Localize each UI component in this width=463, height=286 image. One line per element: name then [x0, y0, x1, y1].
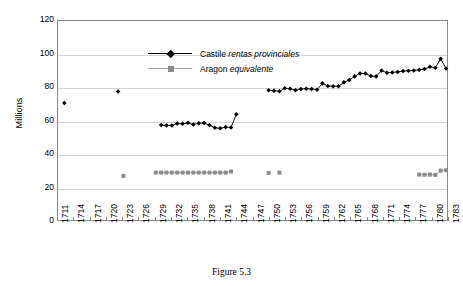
data-point-diamond	[395, 70, 400, 75]
data-point-square	[433, 173, 437, 177]
figure-caption: Figure 5.3	[0, 267, 463, 277]
x-tickmark-1774	[399, 217, 400, 221]
data-point-diamond	[433, 65, 438, 70]
data-point-square	[121, 174, 125, 178]
data-point-diamond	[385, 70, 390, 75]
data-point-diamond	[62, 101, 67, 106]
data-point-square	[170, 171, 174, 175]
data-point-square	[181, 171, 185, 175]
x-tickmark-1732	[171, 217, 172, 221]
data-point-square	[154, 171, 158, 175]
data-point-diamond	[406, 68, 411, 73]
data-point-square	[417, 173, 421, 177]
data-point-diamond	[331, 84, 336, 89]
y-axis-tick-100: 100	[30, 49, 54, 58]
data-point-diamond	[266, 88, 271, 93]
data-point-square	[191, 171, 195, 175]
x-axis-tick-1774: 1774	[403, 204, 412, 223]
x-axis-tick-1741: 1741	[224, 204, 233, 223]
x-tickmark-1735	[187, 217, 188, 221]
data-point-square	[164, 171, 168, 175]
x-tickmark-1771	[383, 217, 384, 221]
x-tickmark-1738	[204, 217, 205, 221]
x-axis-tick-labels: 1711171417171720172317261729173217351738…	[57, 221, 448, 267]
data-point-diamond	[170, 123, 175, 128]
data-point-diamond	[202, 121, 207, 126]
x-tickmark-1723	[122, 217, 123, 221]
data-point-diamond	[422, 67, 427, 72]
data-point-diamond	[272, 88, 277, 93]
series-aragon	[121, 168, 448, 178]
figure-container: Millions 020406080100120 Castile rentas …	[0, 0, 463, 286]
data-point-diamond	[196, 121, 201, 126]
x-tickmark-1783	[448, 217, 449, 221]
x-axis-tick-1714: 1714	[77, 204, 86, 223]
data-point-diamond	[180, 122, 185, 127]
x-axis-tick-1783: 1783	[452, 204, 461, 223]
y-axis-tick-120: 120	[30, 15, 54, 24]
y-axis-tick-80: 80	[30, 82, 54, 91]
data-point-square	[229, 170, 233, 174]
data-point-diamond	[412, 68, 417, 73]
x-axis-tick-1747: 1747	[257, 204, 266, 223]
x-tickmark-1768	[367, 217, 368, 221]
data-point-diamond	[428, 64, 433, 69]
x-tickmark-1717	[90, 217, 91, 221]
x-tickmark-1729	[155, 217, 156, 221]
x-axis-tick-1726: 1726	[142, 204, 151, 223]
x-axis-tick-1765: 1765	[354, 204, 363, 223]
data-point-diamond	[175, 121, 180, 126]
x-axis-tick-1735: 1735	[191, 204, 200, 223]
x-axis-tick-1780: 1780	[436, 204, 445, 223]
square-marker-icon	[168, 66, 174, 72]
x-axis-tick-1750: 1750	[273, 204, 282, 223]
x-axis-tick-1753: 1753	[289, 204, 298, 223]
x-axis-tick-1756: 1756	[305, 204, 314, 223]
y-axis-tick-0: 0	[30, 216, 54, 225]
x-axis-tick-1744: 1744	[240, 204, 249, 223]
x-axis-tick-1717: 1717	[94, 204, 103, 223]
data-point-diamond	[444, 66, 449, 71]
x-axis-tick-1720: 1720	[110, 204, 119, 223]
x-tickmark-1759	[318, 217, 319, 221]
data-point-square	[277, 171, 281, 175]
x-tickmark-1714	[73, 217, 74, 221]
data-point-diamond	[207, 123, 212, 128]
x-axis-tick-1732: 1732	[175, 204, 184, 223]
x-axis-tick-1759: 1759	[322, 204, 331, 223]
x-tickmark-1756	[301, 217, 302, 221]
data-point-square	[175, 171, 179, 175]
data-point-diamond	[213, 126, 218, 131]
x-tickmark-1747	[253, 217, 254, 221]
data-point-square	[202, 171, 206, 175]
legend-item-aragon: Aragon equivalente	[148, 61, 378, 76]
legend-key-castile	[148, 48, 192, 59]
data-point-diamond	[164, 123, 169, 128]
data-point-diamond	[304, 86, 309, 91]
x-tickmark-1765	[350, 217, 351, 221]
x-tickmark-1762	[334, 217, 335, 221]
x-tickmark-1741	[220, 217, 221, 221]
legend-label-aragon: Aragon equivalente	[200, 64, 273, 74]
data-point-square	[444, 168, 448, 172]
data-point-diamond	[186, 121, 191, 126]
x-tickmark-1726	[138, 217, 139, 221]
y-axis-tick-40: 40	[30, 149, 54, 158]
data-point-diamond	[218, 126, 223, 131]
data-point-square	[224, 171, 228, 175]
data-point-diamond	[223, 125, 228, 130]
data-point-square	[159, 171, 163, 175]
y-axis-title: Millions	[14, 78, 24, 148]
legend-label-castile: Castile rentas provinciales	[200, 49, 299, 59]
x-axis-tick-1729: 1729	[159, 204, 168, 223]
data-point-square	[213, 171, 217, 175]
data-point-diamond	[234, 112, 239, 117]
x-tickmark-1711	[57, 217, 58, 221]
x-axis-tick-1777: 1777	[419, 204, 428, 223]
y-axis-tick-labels: 020406080100120	[26, 0, 54, 286]
x-axis-tick-1768: 1768	[371, 204, 380, 223]
legend-key-aragon	[148, 63, 192, 74]
legend-item-castile: Castile rentas provinciales	[148, 46, 378, 61]
x-tickmark-1777	[415, 217, 416, 221]
legend-label-aragon-plain: Aragon	[200, 64, 230, 74]
